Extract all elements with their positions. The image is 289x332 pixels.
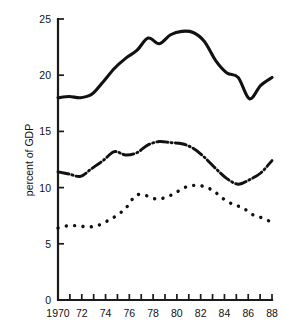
plot-area: 0510152025 1970727476788082848688 [39,13,278,319]
y-tick-label: 5 [45,238,51,250]
line-chart: 0510152025 1970727476788082848688 percen… [0,0,289,332]
x-tick-label: 74 [100,307,112,319]
x-tick-label: 84 [219,307,231,319]
y-tick-label: 25 [39,13,51,25]
y-axis-tick-labels: 0510152025 [39,13,51,306]
x-tick-label: 1970 [46,307,70,319]
y-axis-title: percent of GDP [23,124,35,196]
y-tick-label: 10 [39,182,51,194]
x-tick-label: 86 [242,307,254,319]
x-tick-label: 76 [123,307,135,319]
x-tick-label: 80 [171,307,183,319]
chart-container: 0510152025 1970727476788082848688 percen… [0,0,289,332]
x-tick-label: 88 [266,307,278,319]
x-tick-label: 72 [76,307,88,319]
y-tick-label: 15 [39,125,51,137]
series-line-total [58,31,272,99]
series-line-lower [58,185,272,228]
x-tick-label: 78 [147,307,159,319]
y-tick-label: 20 [39,69,51,81]
series-line-middle [58,141,272,184]
x-axis-tick-labels: 1970727476788082848688 [46,307,278,319]
chart-axes [58,19,272,300]
x-tick-label: 82 [195,307,207,319]
y-tick-label: 0 [45,294,51,306]
